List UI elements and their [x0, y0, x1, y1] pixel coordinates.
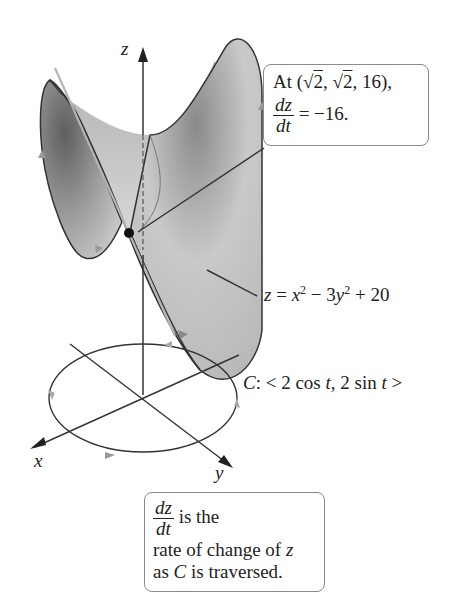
y-axis-label: y — [215, 462, 223, 484]
surface-equation-label: z = x2 − 3y2 + 20 — [264, 283, 389, 306]
curve-c-label: C: < 2 cos t, 2 sin t > — [243, 372, 402, 394]
point-coordinates: At (√2, √2, 16), — [273, 71, 428, 93]
z-axis-label: z — [121, 38, 128, 60]
z-axis-arrow-icon — [138, 47, 148, 62]
surface-right-lobe — [130, 39, 262, 379]
x-axis-label: x — [34, 450, 42, 472]
x-axis — [35, 355, 239, 447]
derivative-value: dzdt = −16. — [273, 95, 428, 136]
explanation-callout: dzdt is the rate of change of z as C is … — [144, 492, 325, 592]
point-marker — [124, 228, 134, 238]
point-callout: At (√2, √2, 16), dzdt = −16. — [263, 64, 429, 146]
x-axis-arrow-icon — [30, 437, 46, 449]
